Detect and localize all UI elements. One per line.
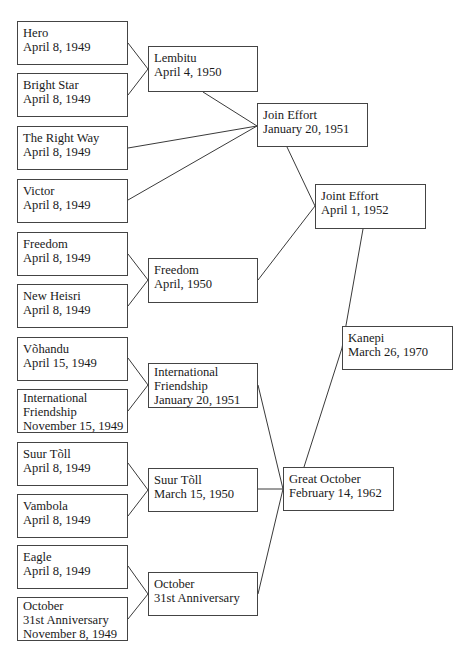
node-intl-friendship-1949: InternationalFriendshipNovember 15, 1949 — [17, 389, 128, 433]
edge-eagle-to-october-31st — [128, 566, 148, 594]
node-date: February 14, 1962 — [289, 486, 393, 500]
node-date: April 8, 1949 — [23, 513, 127, 527]
node-date: 31st Anniversary — [154, 591, 257, 605]
node-date: April 8, 1949 — [23, 40, 127, 54]
node-suur-toll-1949: Suur TõllApril 8, 1949 — [17, 442, 128, 486]
edge-freedom-1949-to-freedom-1950 — [128, 254, 148, 280]
node-kanepi: KanepiMarch 26, 1970 — [342, 326, 453, 370]
node-freedom-1949: FreedomApril 8, 1949 — [17, 232, 128, 276]
node-name: The Right Way — [23, 131, 127, 145]
edge-vohandu-to-intl-friendship-1951 — [128, 358, 148, 385]
node-date: April 8, 1949 — [23, 251, 127, 265]
node-name: Victor — [23, 184, 127, 198]
node-name-cont: Friendship — [154, 379, 257, 393]
node-date: April 8, 1949 — [23, 198, 127, 212]
node-great-october: Great OctoberFebruary 14, 1962 — [283, 467, 394, 511]
node-name: Lembitu — [154, 51, 257, 65]
node-name: Hero — [23, 26, 127, 40]
node-name-cont: Friendship — [23, 405, 127, 419]
node-bright-star: Bright StarApril 8, 1949 — [17, 73, 128, 117]
node-name: International — [154, 365, 257, 379]
node-name: Freedom — [154, 263, 257, 277]
node-date: April 4, 1950 — [154, 65, 257, 79]
node-date: April 8, 1949 — [23, 303, 127, 317]
edge-vambola-to-suur-toll-1950 — [128, 490, 148, 516]
node-date: April 1, 1952 — [321, 203, 425, 217]
node-eagle: EagleApril 8, 1949 — [17, 545, 128, 589]
node-suur-toll-1950: Suur TõllMarch 15, 1950 — [148, 468, 258, 512]
edge-hero-to-lembitu — [128, 43, 148, 69]
node-name: Bright Star — [23, 78, 127, 92]
node-date: November 15, 1949 — [23, 419, 127, 433]
node-date: November 8, 1949 — [23, 627, 127, 641]
node-date: April 8, 1949 — [23, 145, 127, 159]
node-name: Suur Tõll — [23, 447, 127, 461]
node-october-31st: October31st Anniversary — [148, 572, 258, 616]
node-october-31st-1949: October31st AnniversaryNovember 8, 1949 — [17, 597, 128, 641]
node-date: April 8, 1949 — [23, 564, 127, 578]
node-vohandu: VõhanduApril 15, 1949 — [17, 337, 128, 381]
node-name: October — [154, 577, 257, 591]
node-date: January 20, 1951 — [263, 122, 367, 136]
node-join-effort: Join EffortJanuary 20, 1951 — [257, 103, 368, 147]
node-vambola: VambolaApril 8, 1949 — [17, 494, 128, 538]
node-name: Kanepi — [348, 331, 452, 345]
edge-intl-friendship-1951-to-great-october — [258, 385, 283, 489]
node-lembitu: LembituApril 4, 1950 — [148, 46, 258, 92]
node-hero: HeroApril 8, 1949 — [17, 21, 128, 65]
node-date: April 8, 1949 — [23, 461, 127, 475]
node-the-right-way: The Right WayApril 8, 1949 — [17, 126, 128, 170]
node-intl-friendship-1951: InternationalFriendshipJanuary 20, 1951 — [148, 363, 258, 408]
edge-october-31st-1949-to-october-31st — [128, 594, 148, 619]
node-new-heisri: New HeisriApril 8, 1949 — [17, 284, 128, 328]
node-joint-effort: Joint EffortApril 1, 1952 — [315, 184, 426, 229]
node-name: October — [23, 599, 127, 613]
edge-freedom-1950-to-joint-effort — [258, 206, 315, 280]
edge-bright-star-to-lembitu — [128, 69, 148, 95]
edge-october-31st-to-great-october — [258, 489, 283, 594]
node-name: New Heisri — [23, 289, 127, 303]
node-victor: VictorApril 8, 1949 — [17, 179, 128, 223]
node-name: Joint Effort — [321, 189, 425, 203]
edge-great-october-to-kanepi — [304, 348, 342, 467]
node-name: International — [23, 391, 127, 405]
edge-join-effort-to-joint-effort — [287, 147, 315, 206]
edge-lembitu-to-join-effort — [203, 92, 257, 126]
node-name: Suur Tõll — [154, 473, 257, 487]
node-name: Võhandu — [23, 342, 127, 356]
node-name: Freedom — [23, 237, 127, 251]
edge-suur-toll-1949-to-suur-toll-1950 — [128, 463, 148, 490]
node-date: March 26, 1970 — [348, 345, 452, 359]
node-name: Vambola — [23, 499, 127, 513]
node-freedom-1950: FreedomApril, 1950 — [148, 258, 258, 303]
edge-new-heisri-to-freedom-1950 — [128, 280, 148, 306]
node-date: April, 1950 — [154, 277, 257, 291]
edge-intl-friendship-1949-to-intl-friendship-1951 — [128, 385, 148, 411]
node-date: January 20, 1951 — [154, 393, 257, 407]
node-name: Eagle — [23, 550, 127, 564]
node-date: April 15, 1949 — [23, 356, 127, 370]
node-name: Great October — [289, 472, 393, 486]
node-name-cont: 31st Anniversary — [23, 613, 127, 627]
node-date: April 8, 1949 — [23, 92, 127, 106]
node-date: March 15, 1950 — [154, 487, 257, 501]
node-name: Join Effort — [263, 108, 367, 122]
